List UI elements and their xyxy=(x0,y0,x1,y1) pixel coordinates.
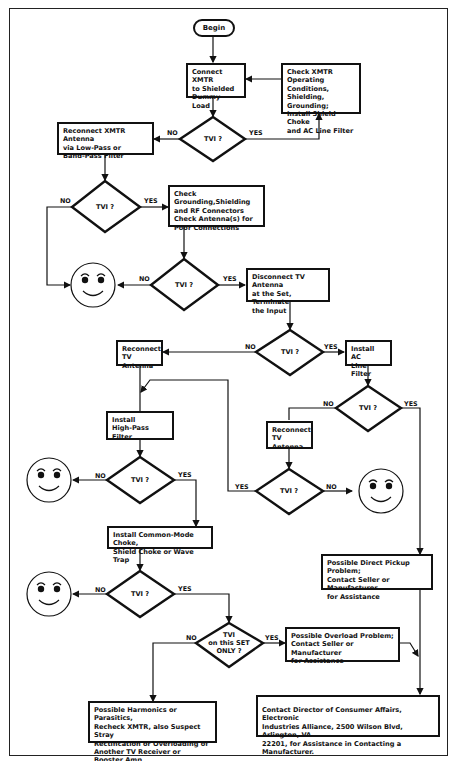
common-mode-choke-box: Install Common-Mode Choke, Shield Choke … xyxy=(107,526,213,549)
edge-yes-2: YES xyxy=(144,197,158,205)
decision-tvi-3: TVI ? xyxy=(161,279,207,291)
edge-no-3: NO xyxy=(139,275,150,283)
edge-yes-5: YES xyxy=(404,400,418,408)
edge-yes-4: YES xyxy=(324,343,338,351)
edge-no-7: NO xyxy=(95,472,106,480)
begin-terminal: Begin xyxy=(193,19,235,37)
harmonics-box: Possible Harmonics or Parasitics, Rechec… xyxy=(88,701,217,743)
decision-tvi-5: TVI ? xyxy=(345,402,391,414)
install-ac-filter-box: Install AC Line Filter xyxy=(345,340,392,366)
direct-pickup-box: Possible Direct Pickup Problem; Contact … xyxy=(321,554,433,590)
edge-yes-7: YES xyxy=(178,471,192,479)
reconnect-xmtr-antenna-box: Reconnect XMTR Antenna via Low-Pass or B… xyxy=(57,122,154,155)
edge-no-4: NO xyxy=(245,343,256,351)
decision-tvi-1: TVI ? xyxy=(190,133,236,145)
edge-yes-1: YES xyxy=(249,129,263,137)
connect-dummy-load-box: Connect XMTR to Shielded Dummy Load xyxy=(186,63,246,98)
reconnect-tv-antenna-box-2: Reconnect TV Antenna xyxy=(266,421,313,449)
begin-label: Begin xyxy=(203,24,225,32)
decision-tvi-6: TVI ? xyxy=(266,485,312,497)
check-grounding-box: Check Grounding,Shielding and RF Connect… xyxy=(168,185,265,227)
decision-tvi-8: TVI ? xyxy=(117,588,163,600)
edge-no-6: NO xyxy=(326,483,337,491)
edge-no-9: NO xyxy=(186,634,197,642)
edge-yes-3: YES xyxy=(223,275,237,283)
check-xmtr-box: Check XMTR Operating Conditions, Shieldi… xyxy=(281,63,361,114)
reconnect-tv-antenna-box-1: Reconnect TV Antenna xyxy=(116,340,163,366)
edge-yes-6: YES xyxy=(235,483,249,491)
overload-box: Possible Overload Problem; Contact Selle… xyxy=(285,627,400,662)
edge-yes-8: YES xyxy=(178,585,192,593)
decision-tvi-2: TVI ? xyxy=(82,201,128,213)
decision-tvi-set-only: TVI on this SET ONLY ? xyxy=(204,630,254,656)
install-hpf-box: Install High-Pass Filter xyxy=(106,411,174,440)
edge-no-1: NO xyxy=(167,129,178,137)
decision-tvi-4: TVI ? xyxy=(267,346,313,358)
disconnect-tv-antenna-box: Disconnect TV Antenna at the Set, Termin… xyxy=(246,268,330,302)
decision-tvi-7: TVI ? xyxy=(117,474,163,486)
contact-director-box: Contact Director of Consumer Affairs, El… xyxy=(256,695,440,737)
edge-no-2: NO xyxy=(60,197,71,205)
edge-yes-9: YES xyxy=(265,634,279,642)
edge-no-8: NO xyxy=(95,586,106,594)
edge-no-5: NO xyxy=(323,400,334,408)
